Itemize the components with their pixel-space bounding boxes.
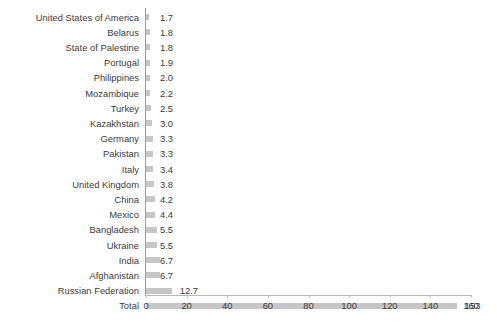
bar: [146, 257, 160, 263]
category-label: Italy: [0, 162, 139, 177]
x-axis-tick: [146, 295, 147, 298]
bar-value-label: 1.8: [160, 25, 173, 40]
bar: [146, 181, 154, 187]
category-label: Philippines: [0, 70, 139, 85]
bar-row: Ukraine5.5: [0, 238, 497, 253]
bar-value-label: 12.7: [180, 283, 198, 298]
bar-row: Afghanistan6.7: [0, 268, 497, 283]
bar-row: India6.7: [0, 253, 497, 268]
bar-value-label: 5.5: [160, 238, 173, 253]
bar-value-label: 2.0: [160, 70, 173, 85]
x-axis-tick: [349, 295, 350, 298]
bar: [146, 272, 160, 278]
bar: [146, 212, 155, 218]
bar-value-label: 3.3: [160, 131, 173, 146]
category-label: Pakistan: [0, 146, 139, 161]
bar: [146, 242, 157, 248]
bar: [146, 227, 157, 233]
category-label: Afghanistan: [0, 268, 139, 283]
category-label: India: [0, 253, 139, 268]
category-label: China: [0, 192, 139, 207]
x-axis-tick-label: 120: [382, 299, 398, 312]
bar-row: Turkey2.5: [0, 101, 497, 116]
bar: [146, 29, 150, 35]
bar-row: Pakistan3.3: [0, 146, 497, 161]
category-label: Portugal: [0, 55, 139, 70]
category-label: State of Palestine: [0, 40, 139, 55]
horizontal-bar-chart: United States of America1.7Belarus1.8Sta…: [0, 0, 497, 335]
bar: [146, 166, 153, 172]
bar-row: Portugal1.9: [0, 55, 497, 70]
category-label: Belarus: [0, 25, 139, 40]
bar-value-label: 4.4: [160, 207, 173, 222]
bar-value-label: 5.5: [160, 222, 173, 237]
bar-row: China4.2: [0, 192, 497, 207]
x-axis-tick: [309, 295, 310, 298]
category-label: Russian Federation: [0, 283, 139, 298]
bar-row: United Kingdom3.8: [0, 177, 497, 192]
x-axis-tick-label: 80: [303, 299, 313, 312]
bar-value-label: 3.3: [160, 146, 173, 161]
bar-value-label: 4.2: [160, 192, 173, 207]
bar-row: Kazakhstan3.0: [0, 116, 497, 131]
category-label: Bangladesh: [0, 222, 139, 237]
plot-area: United States of America1.7Belarus1.8Sta…: [0, 0, 497, 335]
category-label: Mozambique: [0, 86, 139, 101]
x-axis-tick: [430, 295, 431, 298]
category-label: Kazakhstan: [0, 116, 139, 131]
bar: [146, 151, 153, 157]
bar: [146, 60, 150, 66]
bar-value-label: 3.4: [160, 162, 173, 177]
bar-value-label: 6.7: [160, 268, 173, 283]
bar-row: Mozambique2.2: [0, 86, 497, 101]
bar: [146, 288, 172, 294]
bar-row: Russian Federation12.7: [0, 283, 497, 298]
bar-row: Belarus1.8: [0, 25, 497, 40]
bar: [146, 120, 152, 126]
bar-row: State of Palestine1.8: [0, 40, 497, 55]
bar-value-label: 3.8: [160, 177, 173, 192]
category-label: United Kingdom: [0, 177, 139, 192]
bar-row: Mexico4.4: [0, 207, 497, 222]
x-axis-tick: [471, 295, 472, 298]
category-label: Total: [0, 298, 139, 313]
bar-value-label: 3.0: [160, 116, 173, 131]
bar-row: Bangladesh5.5: [0, 222, 497, 237]
bar-value-label: 1.8: [160, 40, 173, 55]
x-axis-tick-label: 40: [222, 299, 232, 312]
bar: [146, 136, 153, 142]
bar-value-label: 1.9: [160, 55, 173, 70]
x-axis-tick: [268, 295, 269, 298]
bar-row: Italy3.4: [0, 162, 497, 177]
bar-row: United States of America1.7: [0, 10, 497, 25]
category-label: Ukraine: [0, 238, 139, 253]
bar: [146, 90, 150, 96]
bar: [146, 303, 457, 310]
x-axis-tick-label: 100: [341, 299, 357, 312]
bar: [146, 14, 149, 20]
bar: [146, 196, 155, 202]
x-axis-tick-label: 20: [181, 299, 191, 312]
bar-row: Germany3.3: [0, 131, 497, 146]
category-label: Germany: [0, 131, 139, 146]
category-label: United States of America: [0, 10, 139, 25]
category-label: Mexico: [0, 207, 139, 222]
bar: [146, 75, 150, 81]
x-axis-tick-label: 160: [463, 299, 479, 312]
bar-row: Philippines2.0: [0, 70, 497, 85]
x-axis-tick: [390, 295, 391, 298]
bar-value-label: 2.2: [160, 86, 173, 101]
x-axis-tick-label: 0: [143, 299, 148, 312]
bar-value-label: 2.5: [160, 101, 173, 116]
bar-value-label: 1.7: [160, 10, 173, 25]
bar-value-label: 6.7: [160, 253, 173, 268]
x-axis-tick: [187, 295, 188, 298]
x-axis-tick-label: 140: [423, 299, 439, 312]
bar: [146, 105, 151, 111]
x-axis-tick: [227, 295, 228, 298]
category-label: Turkey: [0, 101, 139, 116]
bar: [146, 44, 150, 50]
x-axis-tick-label: 60: [263, 299, 273, 312]
